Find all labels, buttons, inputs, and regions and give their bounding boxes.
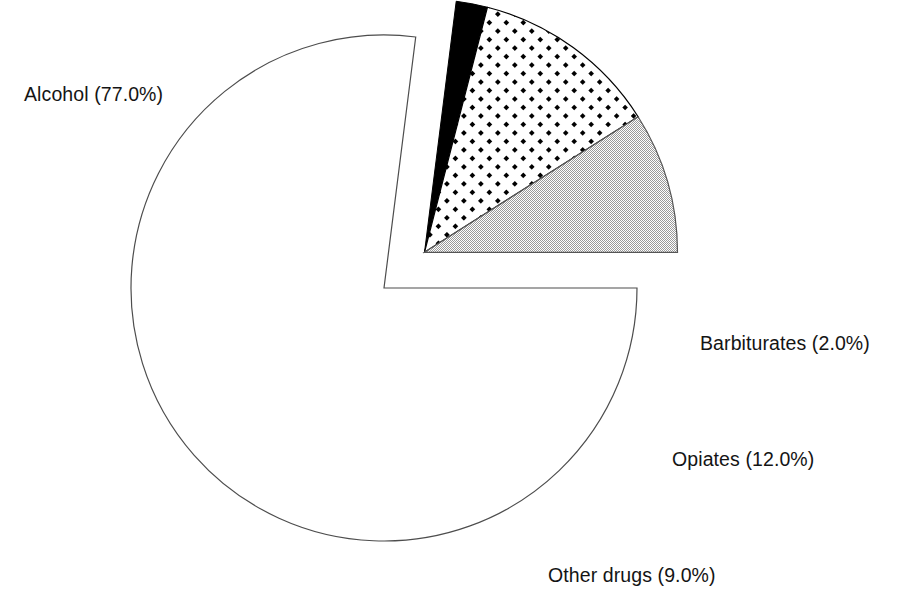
pie-chart: Alcohol (77.0%) Barbiturates (2.0%) Opia… xyxy=(0,0,898,609)
pie-label-opiates: Opiates (12.0%) xyxy=(672,450,814,470)
pie-slices xyxy=(131,1,678,541)
pie-label-other-drugs: Other drugs (9.0%) xyxy=(548,566,716,586)
pie-label-alcohol: Alcohol (77.0%) xyxy=(24,85,163,105)
pie-label-barbiturates: Barbiturates (2.0%) xyxy=(700,334,870,354)
